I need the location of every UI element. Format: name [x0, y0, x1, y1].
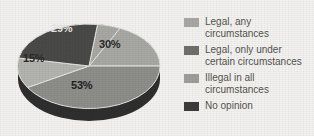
pie-svg [0, 0, 178, 136]
legend-swatch-icon [184, 18, 199, 27]
chart-legend: Legal, any circumstances Legal, only und… [184, 16, 314, 117]
pie-slices [17, 24, 160, 108]
legend-item-label: Legal, any circumstances [205, 16, 269, 39]
legend-swatch-icon [184, 74, 199, 83]
pie-chart-graphic: 30% 53% 29% 15% [0, 0, 178, 136]
pie-slice-no-opinion [19, 24, 98, 66]
legend-swatch-icon [184, 46, 199, 55]
legend-item-label: No opinion [205, 100, 253, 112]
legend-item: Legal, only under certain circumstances [184, 44, 314, 67]
legend-item: Illegal in all circumstances [184, 72, 314, 95]
legend-item-label: Legal, only under certain circumstances [205, 44, 302, 67]
pie-chart-figure: 30% 53% 29% 15% Legal, any circumstances… [0, 0, 314, 136]
legend-swatch-icon [184, 102, 199, 111]
legend-item: Legal, any circumstances [184, 16, 314, 39]
legend-item-label: Illegal in all circumstances [205, 72, 269, 95]
legend-item: No opinion [184, 100, 314, 112]
